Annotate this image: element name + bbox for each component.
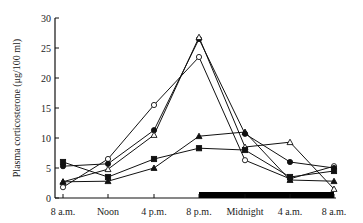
x-tick-label: 8 a.m. (51, 206, 76, 217)
data-point (105, 166, 111, 171)
y-tick-label: 5 (46, 163, 51, 174)
data-point (287, 174, 292, 179)
y-tick-label: 25 (41, 43, 51, 54)
dark-period-bar (199, 192, 334, 198)
x-tick-label: 4 a.m. (278, 206, 303, 217)
data-point (331, 168, 336, 173)
data-point (242, 147, 247, 152)
data-point (151, 165, 157, 170)
x-tick-label: 4 p.m. (141, 206, 166, 217)
x-tick-label: Noon (97, 206, 119, 217)
corticosterone-chart: 0510152025308 a.m.Noon4 p.m.8 p.m.Midnig… (0, 0, 363, 223)
data-point (151, 102, 156, 107)
x-tick-label: 8 a.m. (322, 206, 347, 217)
series-line (63, 57, 334, 187)
data-point (151, 132, 157, 137)
y-tick-label: 20 (41, 73, 51, 84)
data-point (196, 146, 201, 151)
x-tick-label: 8 p.m. (186, 206, 211, 217)
y-tick-label: 10 (41, 133, 51, 144)
data-point (105, 174, 110, 179)
data-point (287, 139, 293, 144)
x-tick-label: Midnight (226, 206, 263, 217)
y-tick-label: 0 (46, 193, 51, 204)
y-tick-label: 15 (41, 103, 51, 114)
series-open-circle (60, 54, 336, 189)
data-point (151, 156, 156, 161)
data-point (196, 54, 201, 59)
data-point (60, 185, 65, 190)
series-line (63, 132, 334, 182)
y-tick-label: 30 (41, 13, 51, 24)
y-axis-label: Plasma corticosterone (μg/100 ml) (11, 39, 23, 177)
plot-area (60, 34, 337, 191)
data-point (287, 159, 292, 164)
data-point (60, 159, 65, 164)
data-point (242, 158, 247, 163)
